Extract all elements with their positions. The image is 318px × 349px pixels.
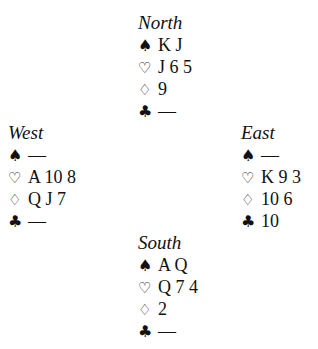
west-clubs: — (28, 211, 46, 231)
club-icon: ♣ (8, 211, 28, 233)
east-spades: — (261, 145, 279, 165)
west-hearts: A 10 8 (28, 167, 76, 187)
east-diamonds-row: ♢10 6 (241, 188, 301, 210)
east-spades-row: ♠— (241, 144, 301, 166)
west-spades: — (28, 145, 46, 165)
west-title: West (8, 122, 76, 144)
club-icon: ♣ (241, 211, 261, 233)
south-hand: South ♠A Q ♡Q 7 4 ♢2 ♣— (138, 232, 198, 342)
west-hand: West ♠— ♡A 10 8 ♢Q J 7 ♣— (8, 122, 76, 232)
south-spades: A Q (158, 255, 188, 275)
south-clubs-row: ♣— (138, 320, 198, 342)
east-clubs: 10 (261, 211, 279, 231)
diamond-icon: ♢ (138, 79, 158, 101)
diamond-icon: ♢ (138, 299, 158, 321)
north-hand: North ♠K J ♡J 6 5 ♢9 ♣— (138, 12, 192, 122)
south-hearts-row: ♡Q 7 4 (138, 276, 198, 298)
east-diamonds: 10 6 (261, 189, 293, 209)
diamond-icon: ♢ (8, 189, 28, 211)
north-title: North (138, 12, 192, 34)
north-clubs: — (158, 101, 176, 121)
north-spades-row: ♠K J (138, 34, 192, 56)
south-clubs: — (158, 321, 176, 341)
east-hearts: K 9 3 (261, 167, 301, 187)
heart-icon: ♡ (241, 167, 261, 189)
south-diamonds-row: ♢2 (138, 298, 198, 320)
south-spades-row: ♠A Q (138, 254, 198, 276)
south-hearts: Q 7 4 (158, 277, 198, 297)
club-icon: ♣ (138, 321, 158, 343)
north-diamonds: 9 (158, 79, 167, 99)
east-clubs-row: ♣10 (241, 210, 301, 232)
north-spades: K J (158, 35, 183, 55)
east-hearts-row: ♡K 9 3 (241, 166, 301, 188)
south-diamonds: 2 (158, 299, 167, 319)
east-title: East (241, 122, 301, 144)
spade-icon: ♠ (8, 145, 28, 167)
spade-icon: ♠ (241, 145, 261, 167)
west-diamonds: Q J 7 (28, 189, 66, 209)
east-hand: East ♠— ♡K 9 3 ♢10 6 ♣10 (241, 122, 301, 232)
west-clubs-row: ♣— (8, 210, 76, 232)
spade-icon: ♠ (138, 255, 158, 277)
west-spades-row: ♠— (8, 144, 76, 166)
north-hearts: J 6 5 (158, 57, 192, 77)
spade-icon: ♠ (138, 35, 158, 57)
north-hearts-row: ♡J 6 5 (138, 56, 192, 78)
heart-icon: ♡ (138, 57, 158, 79)
south-title: South (138, 232, 198, 254)
club-icon: ♣ (138, 101, 158, 123)
north-diamonds-row: ♢9 (138, 78, 192, 100)
north-clubs-row: ♣— (138, 100, 192, 122)
heart-icon: ♡ (138, 277, 158, 299)
heart-icon: ♡ (8, 167, 28, 189)
west-hearts-row: ♡A 10 8 (8, 166, 76, 188)
west-diamonds-row: ♢Q J 7 (8, 188, 76, 210)
diamond-icon: ♢ (241, 189, 261, 211)
